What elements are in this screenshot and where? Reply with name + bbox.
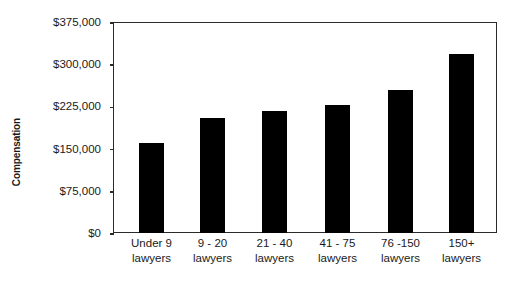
y-axis-tick-label: $150,000	[0, 143, 107, 155]
bar	[325, 105, 350, 233]
y-axis-tick-label: $0	[0, 227, 107, 239]
bar-series	[113, 22, 497, 233]
bar	[139, 143, 164, 233]
bar	[262, 111, 287, 233]
y-axis-tick-mark	[110, 233, 114, 235]
y-axis-tick-labels: $0$75,000$150,000$225,000$300,000$375,00…	[0, 0, 107, 284]
y-axis-tick-label: $225,000	[0, 100, 107, 112]
x-axis-category-labels: Under 9lawyers9 - 20lawyers21 - 40lawyer…	[113, 236, 497, 280]
x-axis-category-label-line2: lawyers	[422, 251, 502, 266]
y-axis-tick-label: $300,000	[0, 58, 107, 70]
bar	[449, 54, 474, 233]
y-axis-tick-label: $75,000	[0, 185, 107, 197]
bar-chart: Compensation $0$75,000$150,000$225,000$3…	[0, 0, 524, 284]
bar	[388, 90, 413, 233]
x-axis-category-label-line1: 150+	[422, 236, 502, 251]
bar	[200, 118, 225, 233]
y-axis-tick-label: $375,000	[0, 16, 107, 28]
x-axis-category-label: 150+lawyers	[422, 236, 502, 265]
